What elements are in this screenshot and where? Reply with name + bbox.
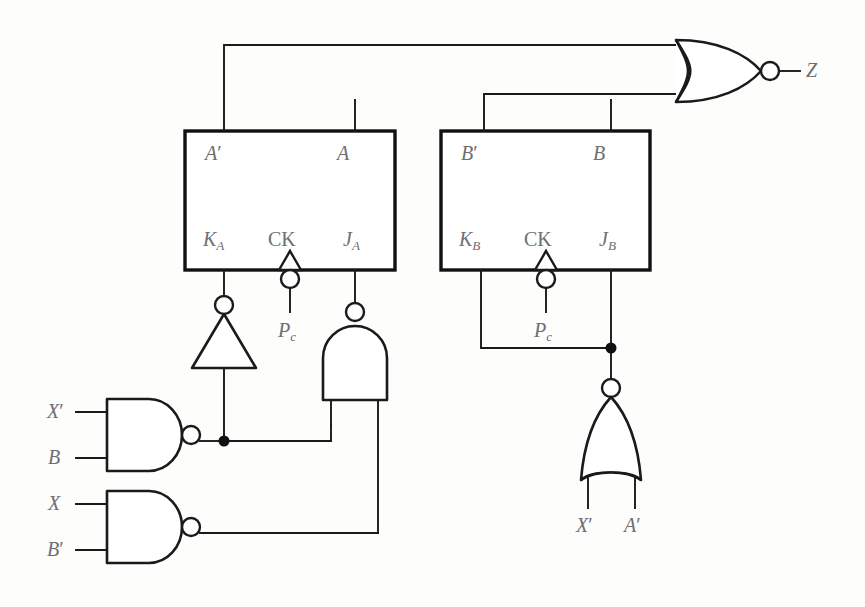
junction-dot-jb-kb bbox=[606, 343, 617, 354]
label-j-b: JB bbox=[599, 229, 616, 252]
clock-b-bubble bbox=[537, 270, 555, 288]
nand-xprime-b-bubble bbox=[182, 426, 200, 444]
label-ck-b: CK bbox=[524, 229, 552, 249]
nor-gate-output-bubble bbox=[761, 62, 779, 80]
label-input-xprime-1: X′ bbox=[47, 401, 64, 421]
label-a: A bbox=[337, 143, 349, 163]
label-j-a: JA bbox=[343, 229, 360, 252]
label-b-prime: B′ bbox=[461, 143, 478, 163]
wire-nand1-out-to-nandja bbox=[224, 425, 331, 441]
nand-ja-bubble bbox=[346, 303, 364, 321]
nand-ja-body bbox=[323, 326, 387, 400]
label-pc-a: Pc bbox=[278, 320, 296, 343]
nor-jb-body bbox=[581, 397, 641, 480]
wire-bprime-to-nor bbox=[484, 94, 676, 131]
label-a-prime: A′ bbox=[205, 143, 222, 163]
nor-jb-bubble bbox=[602, 379, 620, 397]
label-k-a: KA bbox=[203, 229, 224, 252]
label-input-b-1: B bbox=[48, 447, 60, 467]
junction-dot-nand1 bbox=[219, 436, 230, 447]
label-pc-b: Pc bbox=[534, 320, 552, 343]
circuit-diagram-canvas: A′ A KA CK JA Pc B′ B KB CK JB Pc Z X′ B… bbox=[0, 0, 865, 607]
label-ck-a: CK bbox=[268, 229, 296, 249]
label-b: B bbox=[593, 143, 605, 163]
nand-xprime-b-body bbox=[107, 399, 182, 471]
label-k-b: KB bbox=[459, 229, 480, 252]
nand-x-bprime-bubble bbox=[182, 518, 200, 536]
circuit-schematic-svg bbox=[0, 0, 865, 607]
label-input-x-2: X bbox=[48, 493, 60, 513]
label-nor-input-xprime: X′ bbox=[576, 515, 593, 535]
wire-aprime-to-nor bbox=[224, 45, 676, 131]
inverter-triangle bbox=[192, 314, 256, 368]
inverter-bubble bbox=[215, 296, 233, 314]
nand-x-bprime-body bbox=[107, 491, 182, 563]
label-nor-input-aprime: A′ bbox=[624, 515, 641, 535]
clock-a-bubble bbox=[281, 270, 299, 288]
label-z-output: Z bbox=[806, 60, 817, 80]
label-input-bprime-2: B′ bbox=[47, 539, 64, 559]
